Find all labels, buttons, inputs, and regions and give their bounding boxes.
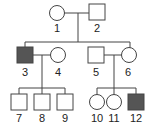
individual-10-female — [90, 95, 105, 110]
individual-6-female — [122, 48, 137, 63]
individual-5-male — [88, 47, 104, 63]
label-5: 5 — [86, 66, 106, 78]
label-11: 11 — [104, 112, 124, 124]
label-3: 3 — [15, 66, 35, 78]
individual-11-female — [107, 95, 122, 110]
label-7: 7 — [9, 112, 29, 124]
individual-9-male — [57, 94, 73, 110]
label-8: 8 — [32, 112, 52, 124]
pedigree-lines — [19, 13, 136, 95]
label-9: 9 — [55, 112, 75, 124]
label-6: 6 — [118, 66, 138, 78]
individual-2-male — [89, 4, 105, 20]
label-4: 4 — [48, 66, 68, 78]
label-2: 2 — [87, 22, 107, 34]
individual-7-male — [11, 94, 27, 110]
label-1: 1 — [47, 22, 67, 34]
individual-8-male — [34, 94, 50, 110]
individual-3-male-affected — [17, 47, 33, 63]
individual-4-female — [51, 48, 66, 63]
individual-1-female — [50, 6, 65, 21]
individual-12-male-affected — [128, 94, 144, 110]
label-12: 12 — [126, 112, 146, 124]
